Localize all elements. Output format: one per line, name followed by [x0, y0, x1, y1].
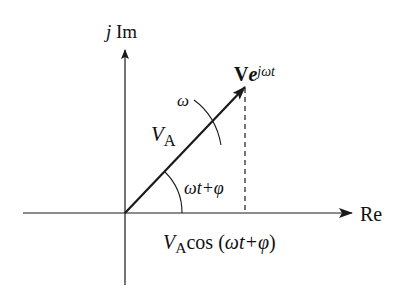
j-symbol: j [106, 21, 111, 42]
real-axis-label: Re [360, 204, 382, 224]
projection-close: ) [269, 231, 276, 253]
projection-cos: cos ( [186, 231, 224, 253]
angle-arc [165, 172, 182, 213]
magnitude-v: V [151, 122, 164, 146]
phasor-e: e [248, 63, 257, 85]
projection-arg: ωt+φ [225, 231, 269, 253]
magnitude-sub: A [164, 131, 176, 150]
imaginary-axis-label: j Im [106, 22, 137, 41]
projection-v: V [163, 231, 175, 253]
rotation-label: ω [177, 92, 189, 109]
projection-sub: A [175, 239, 186, 256]
rotation-arc [194, 100, 221, 145]
magnitude-label: VA [151, 124, 176, 145]
projection-label: VAcos (ωt+φ) [163, 232, 276, 252]
phasor-label: Vejωt [234, 64, 275, 84]
phasor-exponent: jωt [257, 64, 275, 79]
phasor-v: V [234, 63, 248, 85]
im-text: Im [116, 21, 137, 42]
angle-label: ωt+φ [184, 179, 224, 197]
